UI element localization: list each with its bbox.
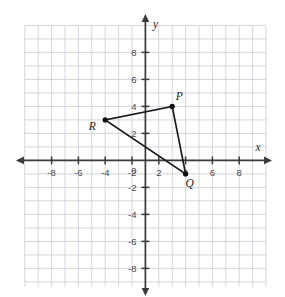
origin-label: 0: [131, 165, 136, 176]
y-tick-label-6: 6: [131, 74, 136, 85]
x-axis: [16, 157, 272, 165]
y-axis-label: y: [152, 18, 159, 31]
coordinate-plane-svg: -8 -6 -4 -2 2 4 6 8 8 6 4 2 -2 -4 -6 -8 …: [0, 0, 285, 297]
coordinate-plane-figure: -8 -6 -4 -2 2 4 6 8 8 6 4 2 -2 -4 -6 -8 …: [0, 0, 285, 297]
x-tick-label-6: 6: [210, 167, 215, 178]
x-tick-label--4: -4: [101, 167, 109, 178]
y-tick-label-8: 8: [131, 47, 136, 58]
vertex-dot-r: [103, 117, 108, 122]
vertex-label-p: P: [175, 90, 183, 102]
x-tick-label--6: -6: [74, 167, 82, 178]
y-tick-label-4: 4: [131, 101, 136, 112]
y-axis-top-arrow: [142, 14, 150, 22]
vertex-dot-p: [170, 104, 175, 109]
y-tick-label--6: -6: [128, 236, 136, 247]
x-axis-right-arrow: [264, 157, 272, 165]
x-tick-label-2: 2: [156, 167, 161, 178]
y-tick-label--4: -4: [128, 209, 136, 220]
y-axis-bottom-arrow: [142, 288, 150, 296]
vertex-dot-q: [183, 171, 188, 176]
x-tick-label--8: -8: [47, 167, 55, 178]
y-tick-label--8: -8: [128, 263, 136, 274]
y-axis: [142, 14, 150, 296]
vertex-label-q: Q: [185, 177, 194, 189]
x-axis-left-arrow: [16, 157, 24, 165]
x-axis-label: x: [254, 141, 261, 153]
vertex-label-r: R: [88, 120, 96, 132]
y-tick-label--2: -2: [128, 182, 136, 193]
x-tick-label-8: 8: [237, 167, 242, 178]
